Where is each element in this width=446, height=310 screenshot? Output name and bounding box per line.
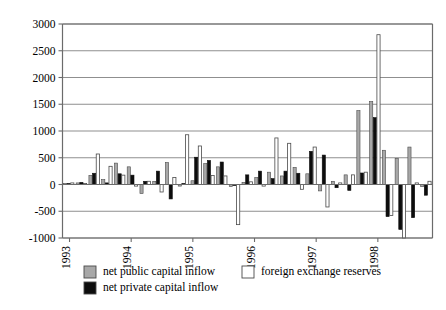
bar (118, 174, 121, 185)
legend-label: net private capital inflow (103, 281, 219, 294)
legend-swatch (84, 266, 96, 278)
y-tick-label: 2500 (33, 45, 56, 57)
bar-series-group (63, 35, 431, 238)
y-tick-label: 1500 (33, 98, 56, 110)
bar (344, 175, 347, 185)
bar (309, 151, 312, 184)
legend-label: foreign exchange reserves (261, 265, 382, 278)
x-tick-label: 1996 (245, 246, 257, 269)
bar (288, 143, 291, 184)
y-tick-label: -500 (34, 205, 55, 217)
bar (207, 160, 210, 184)
bar (399, 185, 402, 230)
bar (102, 180, 105, 185)
bar (370, 102, 373, 185)
bar (96, 154, 99, 185)
bar (402, 185, 405, 239)
bar (351, 175, 354, 185)
bar (412, 185, 415, 218)
bar (255, 178, 258, 185)
bar (131, 175, 134, 184)
bar (89, 175, 92, 184)
y-tick-label: 3000 (33, 18, 56, 30)
bar (300, 185, 303, 190)
x-tick-label: 1993 (60, 246, 72, 269)
bar (297, 173, 300, 184)
bar (122, 175, 125, 184)
bar (382, 150, 385, 184)
bar (169, 185, 172, 199)
bar (348, 185, 351, 191)
y-tick-label: 1000 (33, 125, 56, 137)
y-axis-tick-labels: 300025002000150010005000-500-1000 (29, 18, 56, 244)
bar (93, 173, 96, 184)
bar (306, 174, 309, 185)
bar (293, 167, 296, 184)
bar (361, 173, 364, 185)
bar (109, 166, 112, 184)
bar (322, 155, 325, 184)
chart-legend: net public capital inflownet private cap… (84, 265, 382, 294)
bar (313, 147, 316, 184)
y-tick-label: 0 (50, 179, 56, 191)
bar (319, 185, 322, 191)
bar (156, 171, 159, 184)
bar (186, 135, 189, 185)
bar (217, 167, 220, 185)
bar (237, 185, 240, 225)
bar (268, 172, 271, 184)
bar (173, 178, 176, 185)
bar (246, 175, 249, 185)
bar (395, 158, 398, 184)
bar (195, 157, 198, 184)
legend-swatch (242, 266, 254, 278)
bar (160, 185, 163, 192)
bar (127, 167, 130, 185)
legend-label: net public capital inflow (103, 265, 216, 278)
bar (364, 172, 367, 184)
bar (386, 185, 389, 217)
bar (140, 185, 143, 194)
bar (220, 162, 223, 184)
bar (224, 176, 227, 185)
y-tick-label: -1000 (29, 232, 56, 244)
bar (373, 118, 376, 185)
bar (408, 147, 411, 184)
bar (271, 179, 274, 185)
bar (326, 185, 329, 207)
bar (258, 171, 261, 184)
bar (390, 185, 393, 216)
bar (211, 175, 214, 184)
x-axis-ticks (70, 238, 378, 242)
y-tick-label: 500 (38, 152, 56, 164)
bar (424, 185, 427, 196)
bar (357, 111, 360, 185)
bar (114, 163, 117, 184)
capital-flows-bar-chart: 300025002000150010005000-500-1000 199319… (0, 0, 446, 310)
legend-swatch (84, 282, 96, 294)
y-tick-label: 2000 (33, 72, 56, 84)
bar (165, 163, 168, 185)
bar (275, 138, 278, 185)
bar (198, 146, 201, 185)
bar (204, 164, 207, 185)
bar (377, 35, 380, 185)
bar (284, 171, 287, 184)
bar (280, 176, 283, 185)
